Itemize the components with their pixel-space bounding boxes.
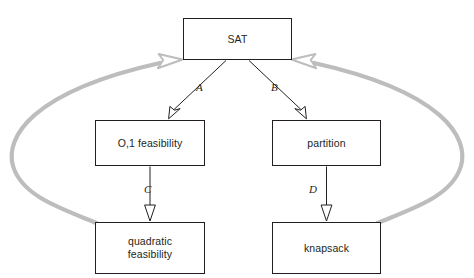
edge-label-b: B: [271, 81, 278, 93]
node-zero-one-feasibility[interactable]: O,1 feasibility: [95, 120, 205, 166]
edge-label-c: C: [144, 183, 151, 195]
node-partition[interactable]: partition: [272, 120, 381, 166]
edge-c-arrowhead: [145, 205, 156, 221]
node-knapsack-label: knapsack: [304, 242, 349, 255]
edge-label-d: D: [309, 183, 317, 195]
node-partition-label: partition: [307, 137, 345, 150]
reduction-diagram: SAT O,1 feasibility partition quadratic …: [0, 0, 474, 278]
node-knapsack[interactable]: knapsack: [272, 222, 381, 274]
edge-d-arrowhead: [321, 205, 332, 221]
node-sat-label: SAT: [228, 33, 248, 46]
node-zero-one-feasibility-label: O,1 feasibility: [118, 137, 183, 150]
node-sat[interactable]: SAT: [183, 18, 292, 60]
node-quadratic-feasibility-label: quadratic feasibility: [128, 235, 172, 261]
edge-label-a: A: [196, 81, 203, 93]
edge-right-loop-arrowhead: [292, 54, 317, 68]
edge-left-loop-arrowhead: [158, 54, 183, 68]
edge-b-arrowhead: [295, 106, 307, 118]
gray-edge-group: [12, 54, 463, 223]
edge-a-arrowhead: [169, 106, 181, 118]
node-quadratic-feasibility[interactable]: quadratic feasibility: [95, 222, 205, 274]
